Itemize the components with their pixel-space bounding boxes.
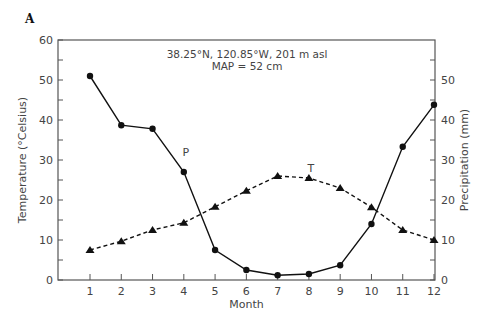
marker-triangle	[179, 219, 188, 226]
x-tick-label: 12	[427, 285, 441, 298]
x-tick-label: 7	[274, 285, 281, 298]
y-tick-label: 0	[46, 274, 53, 287]
y2-tick-label: 20	[441, 194, 455, 207]
marker-triangle	[211, 203, 220, 210]
x-tick-label: 9	[337, 285, 344, 298]
x-tick-label: 11	[396, 285, 410, 298]
marker-triangle	[148, 226, 157, 233]
marker-circle	[431, 102, 437, 108]
marker-circle	[181, 169, 187, 175]
marker-circle	[274, 272, 280, 278]
x-tick-label: 8	[305, 285, 312, 298]
y-tick-label: 20	[39, 194, 53, 207]
y-axis-label: Temperature (°Celsius)	[16, 97, 29, 224]
x-tick-label: 2	[118, 285, 125, 298]
y2-tick-label: 10	[441, 234, 455, 247]
site-annotation: 38.25°N, 120.85°W, 201 m asl	[167, 48, 328, 60]
marker-circle	[400, 144, 406, 150]
y2-tick-label: 40	[441, 114, 455, 127]
climate-chart: 010203040506001020304050123456789101112M…	[0, 0, 494, 327]
series-line-P	[90, 76, 434, 275]
plot-frame	[58, 40, 435, 280]
marker-circle	[368, 221, 374, 227]
y2-tick-label: 30	[441, 154, 455, 167]
marker-circle	[149, 126, 155, 132]
x-tick-label: 3	[149, 285, 156, 298]
marker-circle	[337, 262, 343, 268]
marker-triangle	[242, 187, 251, 194]
x-tick-label: 10	[364, 285, 378, 298]
site-annotation: MAP = 52 cm	[212, 60, 283, 72]
y2-tick-label: 50	[441, 74, 455, 87]
x-tick-label: 5	[212, 285, 219, 298]
series-label-P: P	[182, 146, 189, 159]
series-line-T	[90, 176, 434, 250]
x-tick-label: 1	[87, 285, 94, 298]
marker-circle	[87, 73, 93, 79]
x-axis-label: Month	[229, 298, 264, 311]
marker-triangle	[273, 172, 282, 179]
y2-tick-label: 0	[441, 274, 448, 287]
x-tick-label: 4	[180, 285, 187, 298]
y-tick-label: 60	[39, 34, 53, 47]
marker-triangle	[304, 174, 313, 181]
marker-circle	[212, 247, 218, 253]
y-tick-label: 30	[39, 154, 53, 167]
marker-triangle	[367, 203, 376, 210]
y-tick-label: 40	[39, 114, 53, 127]
marker-circle	[118, 122, 124, 128]
x-tick-label: 6	[243, 285, 250, 298]
y-tick-label: 50	[39, 74, 53, 87]
series-label-T: T	[307, 162, 315, 175]
y-tick-label: 10	[39, 234, 53, 247]
marker-circle	[306, 271, 312, 277]
y2-axis-label: Precipitation (mm)	[458, 109, 471, 211]
marker-circle	[243, 267, 249, 273]
marker-triangle	[336, 184, 345, 191]
